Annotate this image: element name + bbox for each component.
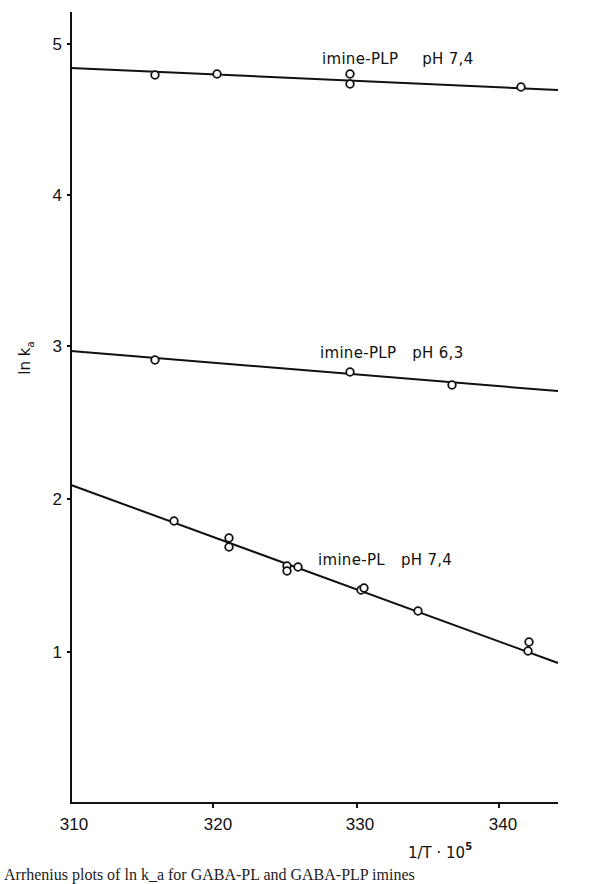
data-point (225, 543, 233, 551)
fit-line-plp-ph74 (71, 68, 558, 90)
series-label-plp-ph63: imine-PLPpH 6,3 (320, 344, 463, 362)
data-point (346, 80, 354, 88)
arrhenius-chart: 5 4 3 2 1 310 320 330 340 ln ka 1/T · 10… (0, 0, 592, 884)
data-point (448, 381, 456, 389)
x-tick-label: 340 (489, 815, 517, 834)
x-axis-title-main: 1/T · 10 (408, 844, 465, 862)
data-point (213, 70, 221, 78)
series-labels: imine-PLPpH 7,4 imine-PLPpH 6,3 imine-PL… (318, 50, 473, 569)
y-tick-label: 3 (53, 337, 62, 356)
y-axis-title-sub: a (25, 341, 36, 347)
figure-caption: Arrhenius plots of ln k_a for GABA-PL an… (4, 866, 592, 884)
data-point (346, 368, 354, 376)
data-point (151, 356, 159, 364)
y-tick-label: 4 (53, 186, 62, 205)
x-tick-labels: 310 320 330 340 (60, 815, 517, 834)
svg-text:ln ka: ln ka (16, 341, 36, 374)
data-point (525, 638, 533, 646)
x-axis-title: 1/T · 105 (408, 841, 472, 862)
data-point (170, 517, 178, 525)
x-tick-label: 320 (204, 815, 232, 834)
series-label-plp-ph74: imine-PLPpH 7,4 (322, 50, 473, 68)
x-tick-label: 330 (346, 815, 374, 834)
y-tick-label: 2 (53, 490, 62, 509)
data-point (283, 567, 291, 575)
axes (67, 12, 558, 808)
data-point (346, 70, 354, 78)
y-axis-title-main: ln k (16, 347, 34, 374)
x-tick-label: 310 (60, 815, 88, 834)
data-point (414, 607, 422, 615)
svg-text:1/T · 105: 1/T · 105 (408, 841, 472, 862)
data-point (225, 534, 233, 542)
y-tick-label: 5 (53, 35, 62, 54)
data-point (294, 563, 302, 571)
fit-lines (71, 68, 558, 663)
fit-line-plp-ph63 (71, 351, 558, 391)
fit-line-pl-ph74 (71, 485, 558, 663)
y-axis-title: ln ka (16, 341, 36, 374)
y-tick-label: 1 (53, 643, 62, 662)
data-point (524, 647, 532, 655)
data-point (360, 584, 368, 592)
y-tick-labels: 5 4 3 2 1 (53, 35, 62, 662)
data-point (517, 83, 525, 91)
data-point (151, 71, 159, 79)
x-axis-title-sup: 5 (465, 841, 472, 852)
series-label-pl-ph74: imine-PLpH 7,4 (318, 551, 452, 569)
